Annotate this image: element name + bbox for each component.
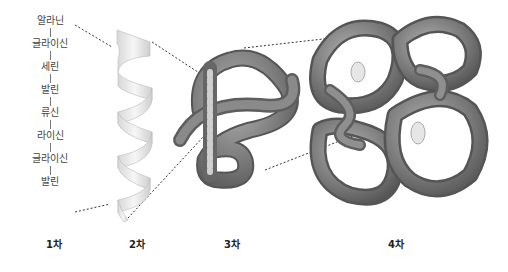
amino-acid: 발린 [20, 175, 80, 189]
connector-primary-top [75, 25, 112, 47]
peptide-bond [50, 120, 51, 129]
peptide-bond [50, 97, 51, 106]
label-quaternary: 4차 [388, 236, 404, 251]
amino-acid: 라이신 [20, 129, 80, 143]
peptide-bond [50, 28, 51, 37]
primary-sequence: 알라닌 글라이신 세린 발린 류신 라이신 글라이신 발린 [20, 14, 80, 189]
peptide-bond [50, 143, 51, 152]
amino-acid: 글라이신 [20, 37, 80, 51]
label-secondary: 2차 [129, 236, 145, 251]
quaternary-structure [318, 24, 481, 197]
peptide-bond [50, 74, 51, 83]
amino-acid: 발린 [20, 83, 80, 97]
peptide-bond [50, 166, 51, 175]
label-tertiary: 3차 [224, 236, 240, 251]
connector-primary-bottom [75, 204, 110, 212]
amino-acid: 세린 [20, 60, 80, 74]
peptide-bond [50, 51, 51, 60]
heme-group [351, 62, 365, 82]
alpha-helix [117, 30, 152, 222]
label-primary: 1차 [46, 236, 62, 251]
tertiary-structure [180, 58, 293, 180]
heme-group [411, 122, 425, 144]
amino-acid: 류신 [20, 106, 80, 120]
amino-acid: 글라이신 [20, 152, 80, 166]
amino-acid: 알라닌 [20, 14, 80, 28]
